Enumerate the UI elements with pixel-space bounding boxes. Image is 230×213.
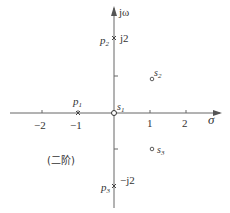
x-tick-neg1: −1: [70, 119, 82, 131]
zero-s3-icon: [150, 147, 154, 151]
x-tick-2: 2: [182, 117, 188, 129]
x-tick-1: 1: [147, 117, 153, 129]
p3-label: p3: [100, 181, 111, 195]
sigma-label: σ: [208, 112, 215, 127]
j2-label: j2: [119, 32, 129, 44]
second-order-note: (二阶): [47, 154, 75, 166]
x-tick-neg2: −2: [34, 119, 46, 131]
neg-j2-label: −j2: [120, 174, 135, 186]
zero-s1-icon: [112, 111, 117, 116]
s1-label: s1: [117, 101, 124, 114]
jw-arrow-icon: [111, 6, 117, 16]
p1-label: p1: [72, 95, 82, 109]
axes: [10, 8, 220, 208]
s3-label: s3: [157, 144, 165, 157]
s-plane-diagram: σ jω −2 −1 1 2 p1 p2 p3 j2 −j2 s1 s2 s3 …: [0, 0, 230, 213]
s2-label: s2: [154, 67, 162, 80]
jw-label: jω: [118, 6, 129, 18]
p2-label: p2: [99, 34, 110, 48]
